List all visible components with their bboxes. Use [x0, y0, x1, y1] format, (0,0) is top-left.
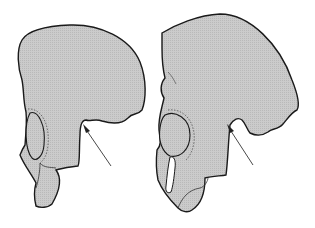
- figure-canvas: [0, 0, 315, 228]
- left-hip-bone: [18, 25, 145, 207]
- right-ilium-outline: [156, 14, 298, 212]
- right-acetabulum-outline: [159, 114, 190, 157]
- hip-bone-figure: [0, 0, 315, 228]
- left-arrow-icon: [83, 124, 111, 166]
- right-hip-bone: [156, 14, 298, 212]
